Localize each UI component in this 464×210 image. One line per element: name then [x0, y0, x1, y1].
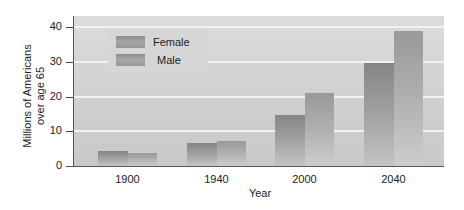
x-axis-title: Year: [230, 187, 290, 199]
y-tick-label-0: 0: [32, 159, 62, 171]
y-axis-title: Millions of Americans over age 65: [21, 44, 47, 147]
y-axis-title-line-1: Millions of Americans: [21, 44, 34, 147]
bar-male-1940: [217, 141, 247, 166]
x-tick-label-1900: 1900: [98, 173, 158, 185]
bar-female-2040: [364, 63, 394, 166]
bar-male-2000: [305, 93, 335, 166]
bar-male-1900: [128, 153, 158, 166]
y-axis-title-line-2: over age 65: [34, 44, 47, 147]
x-axis-line: [66, 166, 444, 167]
x-tick-label-1940: 1940: [187, 173, 247, 185]
legend-label-male: Male: [157, 54, 181, 66]
bar-female-2000: [275, 115, 305, 166]
y-tick-label-40: 40: [32, 20, 62, 32]
legend-swatch-female: [116, 36, 145, 48]
y-axis-line: [73, 16, 74, 167]
bar-female-1940: [187, 143, 217, 166]
x-tick-label-2000: 2000: [275, 173, 335, 185]
bar-female-1900: [98, 151, 128, 166]
bar-male-2040: [394, 31, 424, 166]
legend-label-female: Female: [153, 36, 190, 48]
legend-swatch-male: [116, 54, 145, 66]
x-tick-label-2040: 2040: [364, 173, 424, 185]
bar-chart: 010203040 1900194020002040 Year Millions…: [0, 0, 464, 210]
